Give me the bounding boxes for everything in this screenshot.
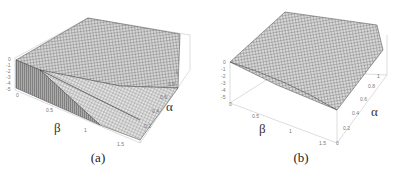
z-axis-ticks-b: 0 -1 -2 -3 -4 -5 <box>221 59 226 100</box>
svg-text:-4: -4 <box>221 87 226 93</box>
panel-b: 0 -1 -2 -3 -4 -5 0 0.5 1 1.5 0 0.2 0.4 0… <box>197 0 394 182</box>
caption-a: (a) <box>78 150 118 166</box>
svg-text:0.4: 0.4 <box>152 108 159 114</box>
caption-b: (b) <box>281 150 321 166</box>
svg-text:1.5: 1.5 <box>319 140 326 146</box>
svg-text:1: 1 <box>84 127 87 133</box>
svg-text:0.2: 0.2 <box>144 123 151 129</box>
svg-text:0.5: 0.5 <box>252 113 259 119</box>
svg-text:-5: -5 <box>221 94 226 100</box>
svg-text:-5: -5 <box>6 86 11 92</box>
beta-axis-label-b: β <box>259 121 266 136</box>
svg-text:0: 0 <box>16 92 19 98</box>
beta-axis-label-a: β <box>54 120 61 135</box>
alpha-axis-label-b: α <box>371 104 378 119</box>
svg-text:0.5: 0.5 <box>46 107 53 113</box>
beta-axis-ticks-b: 0 0.5 1 1.5 <box>229 101 326 146</box>
svg-text:0.8: 0.8 <box>168 81 175 87</box>
svg-text:0.6: 0.6 <box>360 96 367 102</box>
svg-text:-3: -3 <box>221 80 226 86</box>
z-axis-ticks-a: 0 -1 -2 -3 -4 -5 <box>6 56 11 92</box>
svg-text:-1: -1 <box>221 66 226 72</box>
svg-text:0: 0 <box>336 140 339 146</box>
svg-text:-2: -2 <box>221 73 226 79</box>
alpha-axis-label-a: α <box>166 99 173 114</box>
svg-text:0.4: 0.4 <box>352 110 359 116</box>
svg-text:1: 1 <box>289 128 292 134</box>
svg-text:0: 0 <box>223 59 226 65</box>
panel-a: 0 -1 -2 -3 -4 -5 0 0.5 1 1.5 0.2 0.4 0.6… <box>0 0 197 182</box>
svg-text:0: 0 <box>229 101 232 107</box>
svg-text:1: 1 <box>377 73 380 79</box>
svg-text:1: 1 <box>175 69 178 75</box>
svg-text:1.5: 1.5 <box>117 141 124 147</box>
svg-text:0.2: 0.2 <box>343 125 350 131</box>
svg-text:0.8: 0.8 <box>368 83 375 89</box>
